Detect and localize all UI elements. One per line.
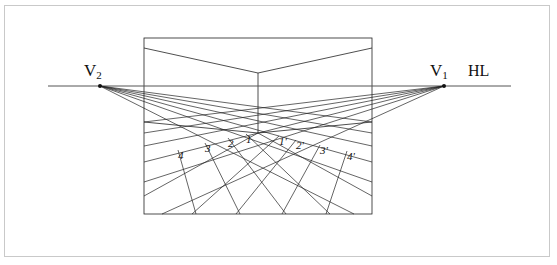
vp-left-letter: V [84,61,96,80]
perspective-figure: V2 V1 HL 1234 1'2'3'4' [0,0,557,265]
vp-left-subscript: 2 [96,69,102,81]
diagonal-lines-left [144,133,347,214]
vanishing-point-right-label: V1 [430,62,448,79]
vp-right-subscript: 1 [442,69,448,81]
ceiling-vee-line [144,48,372,73]
horizon-line-label: HL [468,63,489,79]
room-box-group [144,38,372,214]
grid-label-left-3: 4 [178,150,184,161]
perspective-drawing-canvas [0,0,557,265]
grid-label-right-1: 2' [296,140,304,151]
vp-right-letter: V [430,61,442,80]
vanishing-point-left-dot [98,84,102,88]
grid-label-left-0: 1 [246,134,252,145]
rays-to-right-vp [144,86,444,214]
vanishing-point-left-label: V2 [84,62,102,79]
grid-label-left-1: 2 [228,138,234,149]
grid-label-left-2: 3 [205,143,211,154]
grid-label-right-3: 4' [347,151,355,162]
vanishing-point-right-dot [442,84,446,88]
rays-to-left-vp [100,86,372,214]
grid-label-right-2: 3' [320,145,328,156]
grid-label-right-0: 1' [279,136,287,147]
